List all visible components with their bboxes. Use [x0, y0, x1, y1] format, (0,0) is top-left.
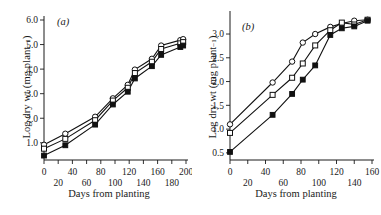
data-point-open-square — [300, 61, 305, 66]
data-point-filled-square — [352, 24, 357, 29]
data-point-filled-square — [181, 43, 186, 48]
data-point-filled-square — [300, 77, 305, 82]
data-point-open-square — [290, 75, 295, 80]
data-point-filled-square — [228, 150, 233, 155]
x-tick-label-upper: 0 — [228, 167, 233, 177]
data-point-open-square — [313, 43, 318, 48]
data-point-filled-square — [365, 18, 370, 23]
x-tick-label-upper: 120 — [329, 167, 344, 177]
series-line-open-square — [230, 20, 368, 133]
x-tick-label-upper: 160 — [150, 167, 165, 177]
data-point-open-square — [339, 20, 344, 25]
data-point-filled-square — [328, 33, 333, 38]
x-tick-label-lower: 100 — [108, 178, 123, 188]
data-point-filled-square — [132, 76, 137, 81]
data-point-filled-square — [125, 89, 130, 94]
y-tick-label: 2.5 — [212, 53, 224, 63]
x-tick-label-lower: 60 — [279, 178, 289, 188]
chart-panel-a: Log dry wt (mg plant−1) (a) Days from pl… — [0, 0, 192, 215]
data-point-filled-square — [290, 92, 295, 97]
data-point-filled-square — [159, 52, 164, 57]
data-point-filled-square — [63, 143, 68, 148]
y-tick-label: 5.0 — [26, 40, 38, 50]
data-point-open-circle — [270, 80, 275, 85]
data-point-open-circle — [300, 40, 305, 45]
series-line-filled-square — [230, 21, 368, 152]
data-point-open-square — [159, 46, 164, 51]
data-point-filled-square — [42, 153, 47, 158]
x-tick-label-lower: 180 — [165, 178, 180, 188]
x-tick-label-lower: 20 — [53, 178, 63, 188]
x-tick-label-upper: 160 — [365, 167, 380, 177]
data-point-open-square — [132, 71, 137, 76]
x-tick-label-upper: 120 — [122, 167, 137, 177]
x-tick-label-lower: 60 — [82, 178, 92, 188]
x-tick-label-upper: 80 — [296, 167, 306, 177]
y-tick-label: 3.0 — [212, 29, 224, 39]
data-point-filled-square — [339, 26, 344, 31]
plot-area-b: 0.51.01.52.02.53.0040801201602060100140 — [189, 0, 381, 215]
x-tick-label-lower: 140 — [347, 178, 362, 188]
data-point-filled-square — [93, 122, 98, 127]
series-line-open-circle — [230, 20, 368, 125]
x-tick-label-upper: 40 — [261, 167, 271, 177]
data-point-open-circle — [227, 122, 232, 127]
figure-root: Log dry wt (mg plant−1) (a) Days from pl… — [0, 0, 381, 215]
y-tick-label: 1.5 — [212, 101, 224, 111]
x-tick-label-lower: 100 — [312, 178, 327, 188]
data-point-filled-square — [150, 64, 155, 69]
x-tick-label-lower: 140 — [136, 178, 151, 188]
x-tick-label-upper: 40 — [68, 167, 78, 177]
y-tick-label: 1.0 — [26, 138, 38, 148]
data-point-open-circle — [289, 59, 294, 64]
x-tick-label-upper: 0 — [42, 167, 47, 177]
y-tick-label: 4.0 — [26, 65, 38, 75]
data-point-open-square — [270, 92, 275, 97]
axis-lines — [230, 11, 374, 160]
plot-area-a: 1.02.03.04.05.06.00408012016020020601001… — [0, 0, 192, 215]
data-point-open-circle — [313, 31, 318, 36]
data-point-open-square — [228, 130, 233, 135]
data-point-open-square — [42, 146, 47, 151]
y-tick-label: 1.0 — [212, 124, 224, 134]
y-tick-label: 6.0 — [26, 15, 38, 25]
chart-panel-b: Log dry wt (mg plant−1) (b) Days from pl… — [189, 0, 381, 215]
data-point-filled-square — [110, 102, 115, 107]
data-point-open-square — [328, 28, 333, 33]
data-point-open-circle — [63, 131, 68, 136]
y-tick-label: 2.0 — [26, 114, 38, 124]
y-tick-label: 2.0 — [212, 77, 224, 87]
data-point-filled-square — [313, 63, 318, 68]
data-point-filled-square — [270, 112, 275, 117]
x-tick-label-upper: 80 — [96, 167, 106, 177]
data-point-open-square — [63, 136, 68, 141]
y-tick-label: 0.5 — [212, 148, 224, 158]
y-tick-label: 3.0 — [26, 89, 38, 99]
x-tick-label-lower: 20 — [243, 178, 253, 188]
